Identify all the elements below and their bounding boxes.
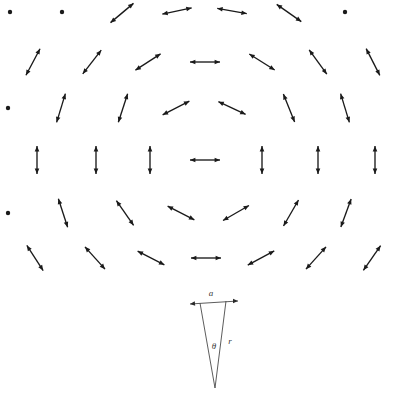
- inset-geometry-layer: aθr: [190, 288, 238, 388]
- geometry-inset: aθr: [0, 0, 394, 398]
- inset-label-a: a: [209, 288, 214, 298]
- inset-dimension-line: [190, 301, 238, 304]
- inset-side-right: [215, 301, 226, 388]
- inset-label-r: r: [228, 336, 232, 346]
- inset-dimension-arrowhead-right: [233, 299, 238, 303]
- figure-root: aθr Director field of a two-dimensional …: [0, 0, 394, 398]
- inset-label-theta: θ: [212, 341, 217, 351]
